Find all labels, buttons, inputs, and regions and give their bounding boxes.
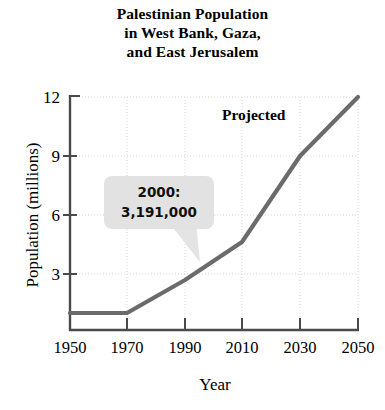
x-tick-label-1970: 1970 [99,339,155,356]
y-axis-title: Population (millions) [23,100,43,330]
callout-line-1: 2000: [104,182,214,202]
callout-2000-box: 2000: 3,191,000 [104,176,214,229]
chart-figure: Palestinian Population in West Bank, Gaz… [0,0,385,410]
x-tick-label-1950: 1950 [42,339,98,356]
callout-line-2: 3,191,000 [104,202,214,222]
x-tick-label-2050: 2050 [330,339,385,356]
x-tick-label-2010: 2010 [214,339,270,356]
x-axis-ticks [70,318,358,330]
x-axis-title: Year [55,375,375,395]
projected-annotation: Projected [222,106,285,124]
x-tick-label-2030: 2030 [272,339,328,356]
x-tick-label-1990: 1990 [157,339,213,356]
